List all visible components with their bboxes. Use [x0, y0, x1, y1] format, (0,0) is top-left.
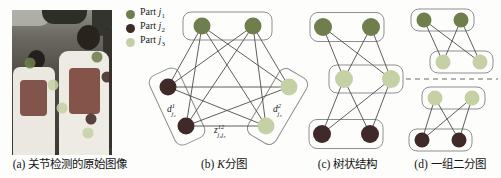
- k-partite-graph-node-j2: [160, 79, 177, 96]
- bipartite-graph-top-node-j3: [473, 55, 488, 70]
- bipartite-graph-bottom-node-j3: [465, 91, 480, 106]
- k-partite-graph-node-j1: [194, 18, 211, 35]
- k-partite-graph-node-j1: [245, 18, 262, 35]
- tree-structure-graph-node-j2: [361, 125, 379, 143]
- graphs-canvas: d1j₂z12j₂j₃d2j₃: [0, 0, 501, 156]
- caption-a: (a) 关节检测的原始图像: [0, 155, 140, 175]
- k-partite-graph-node-j3: [281, 79, 298, 96]
- tree-structure-graph-node-j3: [335, 70, 353, 88]
- figure-joint-detection-graphs: Part j1 Part j2 Part j3 d1j₂z12j₂j₃d2j₃ …: [0, 0, 501, 178]
- bipartite-graph-top-node-j1: [417, 13, 432, 28]
- k-partite-graph-label: z12j₂j₃: [213, 123, 226, 138]
- caption-c: (c) 树状结构: [300, 155, 395, 175]
- bipartite-graph-bottom-node-j2: [415, 133, 430, 148]
- bipartite-graph-bottom-node-j2: [452, 133, 467, 148]
- bipartite-graph-top-node-j1: [454, 13, 469, 28]
- tree-structure-graph-node-j1: [314, 18, 332, 36]
- caption-d: (d) 一组二分图: [399, 155, 501, 175]
- k-partite-graph-node-j2: [178, 118, 195, 135]
- tree-structure-graph-node-j1: [362, 18, 380, 36]
- tree-structure-graph-node-j3: [382, 70, 400, 88]
- bipartite-graph-top-node-j3: [436, 55, 451, 70]
- k-partite-graph-node-j3: [258, 118, 275, 135]
- caption-b: (b) K分图: [168, 155, 280, 175]
- k-partite-graph-group-box: [147, 65, 208, 147]
- bipartite-graph-bottom-node-j3: [428, 91, 443, 106]
- k-partite-graph-edge: [186, 26, 253, 126]
- tree-structure-graph-node-j2: [313, 125, 331, 143]
- k-partite-graph-edge: [202, 26, 266, 126]
